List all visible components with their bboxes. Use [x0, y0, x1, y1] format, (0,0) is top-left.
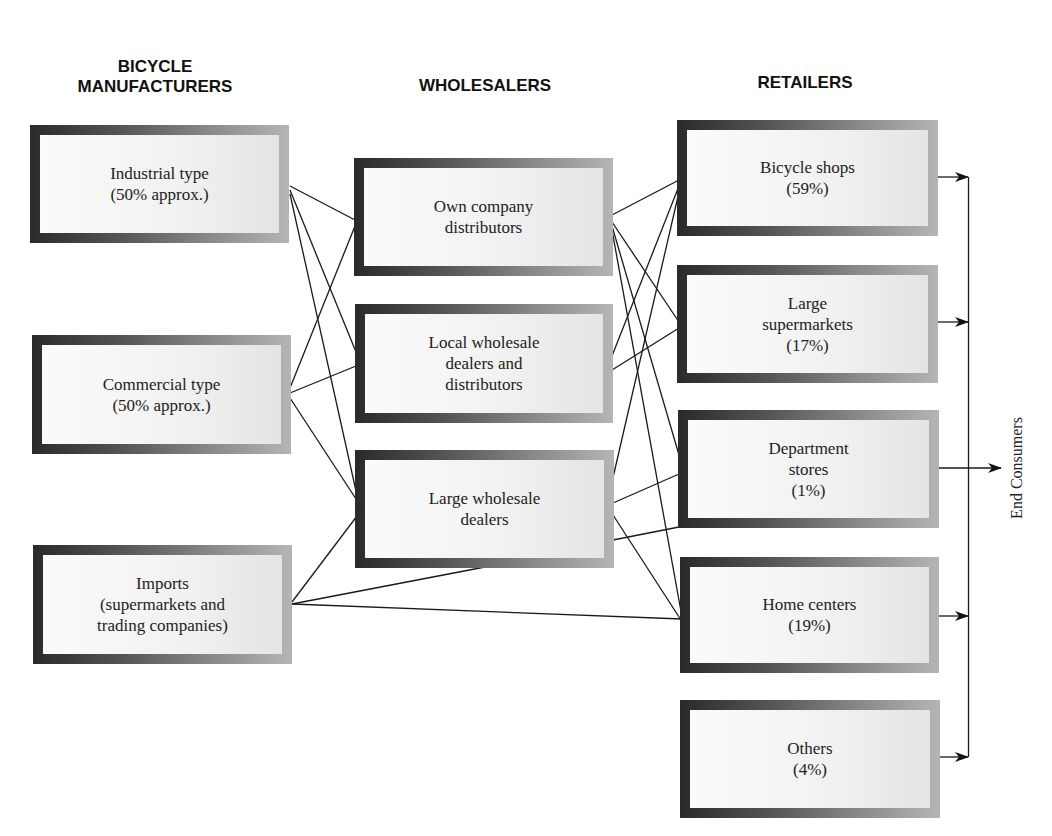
retailer-department-stores: Department stores (1%) — [678, 410, 939, 528]
line-local-bicycle — [612, 186, 679, 356]
box-text: trading companies) — [97, 615, 228, 636]
line-large-department-bottom — [613, 527, 679, 540]
header-retailers: RETAILERS — [690, 73, 920, 93]
box-text: Imports — [136, 573, 189, 594]
manufacturer-imports: Imports (supermarkets and trading compan… — [33, 545, 292, 664]
wholesaler-own-company: Own company distributors — [354, 158, 613, 276]
box-text: Large — [788, 293, 827, 314]
box-text: dealers — [460, 509, 508, 530]
line-own-home-centers — [612, 230, 682, 617]
box-text: (50% approx.) — [112, 395, 210, 416]
box-text: (50% approx.) — [110, 184, 208, 205]
line-imports-large-bottom — [292, 567, 485, 604]
wholesaler-local: Local wholesale dealers and distributors — [355, 304, 613, 423]
box-text: (1%) — [792, 480, 826, 501]
box-text: Department — [768, 438, 848, 459]
box-text: (19%) — [788, 615, 830, 636]
line-large-home-centers — [613, 515, 681, 620]
box-text: stores — [789, 459, 829, 480]
header-wholesalers: WHOLESALERS — [370, 76, 600, 96]
retailer-others: Others (4%) — [680, 700, 940, 818]
line-commercial-own — [290, 226, 355, 388]
box-text: distributors — [445, 374, 522, 395]
box-text: dealers and — [446, 353, 523, 374]
line-imports-home-centers — [292, 604, 682, 619]
line-imports-large — [292, 516, 357, 602]
retailer-home-centers: Home centers (19%) — [680, 557, 939, 673]
manufacturer-commercial: Commercial type (50% approx.) — [32, 335, 291, 454]
line-industrial-large — [290, 194, 358, 500]
box-text: (59%) — [786, 178, 828, 199]
line-large-department — [613, 474, 679, 503]
line-industrial-local — [290, 190, 356, 352]
box-text: distributors — [445, 217, 522, 238]
line-own-department — [612, 226, 679, 455]
box-text: Home centers — [763, 594, 857, 615]
box-text: Own company — [434, 196, 534, 217]
wholesaler-large: Large wholesale dealers — [355, 450, 614, 568]
manufacturer-industrial: Industrial type (50% approx.) — [30, 125, 289, 243]
box-text: Bicycle shops — [760, 157, 855, 178]
retailer-large-supermarkets: Large supermarkets (17%) — [677, 265, 938, 383]
line-large-bicycle — [612, 192, 679, 482]
header-manufacturers: BICYCLE MANUFACTURERS — [40, 57, 270, 97]
end-consumers-label: End Consumers — [1008, 410, 1028, 526]
retailer-bicycle-shops: Bicycle shops (59%) — [677, 120, 938, 236]
box-text: Large wholesale — [429, 488, 541, 509]
box-text: Local wholesale — [429, 332, 540, 353]
box-text: Industrial type — [110, 163, 209, 184]
box-text: supermarkets — [762, 314, 853, 335]
box-text: (4%) — [793, 759, 827, 780]
box-text: (supermarkets and — [100, 594, 225, 615]
line-commercial-local — [290, 366, 356, 393]
header-manufacturers-line1: BICYCLE — [40, 57, 270, 77]
box-text: (17%) — [786, 335, 828, 356]
line-commercial-large — [290, 398, 358, 502]
box-text: Commercial type — [103, 374, 221, 395]
header-manufacturers-line2: MANUFACTURERS — [40, 77, 270, 97]
box-text: Others — [787, 738, 832, 759]
